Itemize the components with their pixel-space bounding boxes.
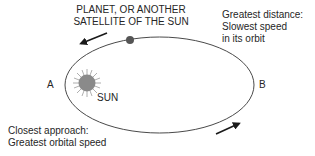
planet-icon (126, 36, 134, 44)
greatest-distance-line-3: in its orbit (222, 33, 303, 45)
planet-label-line-2: SATELLITE OF THE SUN (72, 16, 190, 28)
closest-approach-line-1: Closest approach: (8, 125, 106, 137)
closest-approach-label: Closest approach: Greatest orbital speed (8, 125, 106, 149)
point-a-label: A (47, 79, 54, 91)
planet-label: PLANET, OR ANOTHER SATELLITE OF THE SUN (72, 4, 190, 28)
bottom-direction-arrow (216, 124, 239, 135)
greatest-distance-label: Greatest distance: Slowest speed in its … (222, 9, 303, 45)
point-b-label: B (259, 79, 266, 91)
sun-label: SUN (97, 92, 118, 104)
greatest-distance-line-2: Slowest speed (222, 21, 303, 33)
top-direction-arrow (81, 33, 107, 44)
closest-approach-line-2: Greatest orbital speed (8, 137, 106, 149)
planet-label-line-1: PLANET, OR ANOTHER (72, 4, 190, 16)
greatest-distance-line-1: Greatest distance: (222, 9, 303, 21)
